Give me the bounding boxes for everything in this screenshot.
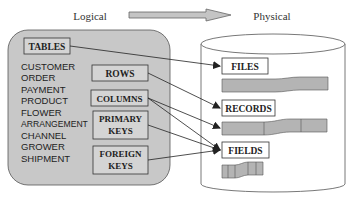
- table-name: PAYMENT: [21, 84, 66, 95]
- records-box: RECORDS: [222, 100, 275, 116]
- logical-physical-diagram: Logical Physical TABLES CUSTOMER ORDER P…: [0, 0, 352, 199]
- files-box: FILES: [222, 58, 268, 74]
- svg-text:PRIMARY: PRIMARY: [99, 114, 143, 124]
- table-name: FLOWER: [21, 107, 62, 118]
- svg-text:RECORDS: RECORDS: [225, 104, 271, 114]
- svg-text:COLUMNS: COLUMNS: [96, 94, 142, 104]
- table-name: CHANNEL: [21, 130, 66, 141]
- foreign-keys-box: FOREIGN KEYS: [93, 146, 148, 174]
- fields-box: FIELDS: [222, 142, 269, 158]
- svg-text:ROWS: ROWS: [105, 69, 134, 79]
- table-name: PRODUCT: [21, 95, 68, 106]
- table-name: ARRANGEMENT: [21, 119, 89, 129]
- primary-keys-box: PRIMARY KEYS: [93, 111, 148, 139]
- rows-box: ROWS: [92, 65, 148, 81]
- table-name: SHIPMENT: [21, 153, 70, 164]
- physical-heading: Physical: [253, 10, 290, 22]
- file-bar: [222, 77, 328, 92]
- table-name: ORDER: [21, 72, 55, 83]
- svg-text:FOREIGN: FOREIGN: [99, 149, 142, 159]
- svg-text:FILES: FILES: [231, 62, 258, 72]
- svg-text:FIELDS: FIELDS: [228, 146, 262, 156]
- svg-text:KEYS: KEYS: [108, 126, 133, 136]
- table-name: GROWER: [21, 141, 65, 152]
- logical-to-physical-arrow: [129, 9, 231, 21]
- svg-text:KEYS: KEYS: [108, 161, 133, 171]
- tables-box: TABLES: [24, 38, 70, 54]
- table-name: CUSTOMER: [21, 61, 75, 72]
- logical-heading: Logical: [73, 10, 107, 22]
- columns-box: COLUMNS: [91, 90, 148, 106]
- svg-text:TABLES: TABLES: [29, 42, 66, 52]
